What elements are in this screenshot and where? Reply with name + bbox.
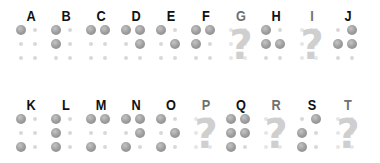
braille-dot-flat (19, 131, 23, 135)
braille-dot-flat (208, 42, 212, 46)
braille-dot-raised (16, 25, 26, 35)
braille-cell: D (121, 7, 151, 77)
cell-letter: F (193, 7, 219, 25)
question-mark-icon: ? (191, 112, 221, 156)
braille-dot-flat (278, 28, 282, 32)
braille-dot-raised (156, 114, 166, 124)
braille-row-a-to-j: A B C D E F G? H I? J (0, 7, 380, 87)
braille-dot-flat (33, 28, 37, 32)
cell-letter: O (158, 96, 184, 114)
braille-dot-raised (226, 142, 236, 152)
braille-dot-flat (54, 56, 58, 60)
braille-dot-flat (173, 56, 177, 60)
braille-cell: K (16, 96, 46, 163)
question-mark-icon: ? (333, 112, 363, 156)
cell-letter: J (335, 7, 361, 25)
braille-dot-flat (89, 42, 93, 46)
braille-cell: S (297, 96, 327, 163)
braille-cell: I? (297, 7, 327, 77)
braille-dots (124, 28, 148, 70)
braille-dot-flat (19, 56, 23, 60)
cell-letter: B (53, 7, 79, 25)
braille-dot-raised (121, 25, 131, 35)
braille-dot-raised (170, 39, 180, 49)
braille-dot-flat (159, 42, 163, 46)
braille-dot-raised (311, 114, 321, 124)
braille-dots (336, 28, 360, 70)
braille-dot-raised (51, 25, 61, 35)
braille-cell: F (191, 7, 221, 77)
braille-dot-raised (240, 114, 250, 124)
braille-dot-raised (191, 25, 201, 35)
braille-dots (194, 28, 218, 70)
braille-dot-raised (347, 25, 357, 35)
braille-dot-raised (275, 39, 285, 49)
braille-dot-raised (156, 142, 166, 152)
braille-dot-flat (264, 56, 268, 60)
braille-dot-raised (121, 142, 131, 152)
braille-dot-flat (314, 145, 318, 149)
braille-dot-raised (51, 142, 61, 152)
cell-letter: H (263, 7, 289, 25)
braille-dot-flat (68, 145, 72, 149)
braille-dot-flat (68, 117, 72, 121)
cell-letter: M (88, 96, 114, 114)
braille-cell: O (156, 96, 186, 163)
braille-dot-flat (336, 28, 340, 32)
braille-dot-flat (300, 117, 304, 121)
braille-dot-flat (243, 145, 247, 149)
braille-dot-flat (278, 56, 282, 60)
braille-cell: H (261, 7, 291, 77)
braille-dot-flat (159, 56, 163, 60)
braille-cell: E (156, 7, 186, 77)
braille-dot-raised (86, 142, 96, 152)
braille-dots (89, 28, 113, 70)
braille-dot-flat (103, 131, 107, 135)
braille-dot-raised (51, 128, 61, 138)
braille-dots (159, 117, 183, 159)
braille-dot-flat (138, 145, 142, 149)
braille-dot-flat (33, 117, 37, 121)
braille-row-k-to-t: K L M N O P? Q R? S T? (0, 96, 380, 163)
braille-dot-flat (173, 28, 177, 32)
braille-cell: L (51, 96, 81, 163)
braille-cell: N (121, 96, 151, 163)
braille-cell: B (51, 7, 81, 77)
braille-dot-flat (19, 42, 23, 46)
braille-dot-raised (297, 128, 307, 138)
braille-dot-flat (350, 56, 354, 60)
braille-cell: R? (261, 96, 291, 163)
braille-dot-flat (194, 56, 198, 60)
braille-dot-flat (68, 42, 72, 46)
braille-cell: T? (333, 96, 363, 163)
braille-dot-flat (173, 145, 177, 149)
braille-dots (19, 28, 43, 70)
braille-dot-flat (208, 56, 212, 60)
braille-dot-raised (170, 128, 180, 138)
braille-dot-raised (121, 114, 131, 124)
braille-dot-flat (68, 56, 72, 60)
braille-dot-raised (333, 39, 343, 49)
cell-letter: N (123, 96, 149, 114)
braille-dot-raised (156, 25, 166, 35)
braille-dots (124, 117, 148, 159)
braille-dot-raised (261, 39, 271, 49)
braille-dots (229, 117, 253, 159)
braille-dot-flat (68, 28, 72, 32)
braille-dot-flat (103, 145, 107, 149)
braille-dot-raised (86, 114, 96, 124)
question-mark-icon: ? (261, 112, 291, 156)
cell-letter: S (299, 96, 325, 114)
braille-cell: Q (226, 96, 256, 163)
braille-dot-flat (173, 117, 177, 121)
braille-dot-flat (336, 56, 340, 60)
braille-dot-raised (297, 142, 307, 152)
cell-letter: K (18, 96, 44, 114)
cell-letter: Q (228, 96, 254, 114)
braille-cell: M (86, 96, 116, 163)
braille-dot-raised (86, 25, 96, 35)
braille-dot-flat (124, 131, 128, 135)
braille-dot-raised (16, 114, 26, 124)
braille-dots (264, 28, 288, 70)
braille-dots (300, 117, 324, 159)
